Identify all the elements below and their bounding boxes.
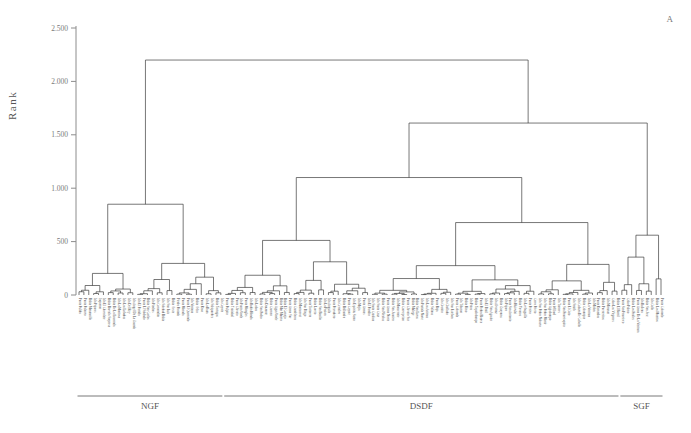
leaf-label: Isla Espiritu Santo	[352, 298, 356, 321]
leaf-label: Bahia Oeste	[171, 298, 175, 314]
leaf-label: Isla Gallo	[650, 298, 654, 311]
leaf-label: Isla Coronadito	[156, 298, 160, 318]
leaf-label: Bahia San Francisquito	[562, 298, 566, 327]
group-label: SGF	[633, 401, 650, 411]
leaf-label: Jaqueron	[98, 298, 102, 310]
svg-text:1.500: 1.500	[51, 130, 68, 139]
leaf-label: Isla Santa Catalina	[371, 298, 375, 322]
leaf-label: Punta San Antonio	[508, 298, 512, 322]
leaf-label: Isla Ventana	[190, 298, 194, 314]
leaf-label: Bahia San Carlos	[146, 298, 150, 320]
leaf-label: Punta Pescadero	[332, 298, 336, 319]
leaf-label: Piedra Pintada	[176, 298, 180, 317]
leaf-label: Bahia Yavaros	[518, 298, 522, 317]
leaf-label: Bahia Manzanillo	[88, 298, 92, 321]
leaf-label: Bahia Guaymas	[499, 298, 503, 318]
leaf-label: Bahia San Basilio	[318, 298, 322, 321]
leaf-label: Punta Willard	[552, 298, 556, 316]
leaf-label: Bahia Topolobampo	[474, 298, 478, 324]
leaf-label: Punta Pulida	[78, 298, 82, 314]
leaf-label: Punta Pulpito	[225, 298, 229, 315]
leaf-label: Punta Chivato Sur	[406, 298, 410, 321]
svg-text:2.500: 2.500	[51, 24, 68, 33]
leaf-label: Punta Arena Sur	[288, 298, 292, 318]
leaf-label: Bahia Concepcion	[401, 298, 405, 321]
dendrogram-figure: A Rank 05001.0001.5002.0002.500 Punta Pu…	[0, 0, 691, 433]
leaf-label: Isla Pajaros	[93, 298, 97, 313]
leaf-label: Isla Mejia	[357, 298, 361, 311]
svg-text:500: 500	[57, 237, 69, 246]
leaf-label: Isla Lobos	[254, 298, 258, 312]
svg-text:1.000: 1.000	[51, 184, 68, 193]
dendrogram-plot: 05001.0001.5002.0002.500 Punta PulidaPun…	[0, 0, 691, 433]
leaf-label: Bahia San Lucas	[415, 298, 419, 320]
leaf-label: Punta Tintorera	[308, 298, 312, 318]
leaf-label: Isla Huivulai	[513, 298, 517, 314]
leaf-label: Bahia Ocho	[195, 298, 199, 313]
leaf-label: Isla La Pasion	[323, 298, 327, 316]
group-label: DSDF	[410, 401, 433, 411]
leaf-label: Punta Morada	[181, 298, 185, 316]
leaf-label: Isla Las Animas	[425, 298, 429, 319]
leaf-label: Isla Pajaro	[504, 298, 508, 312]
leaf-label: Isla Anguila	[327, 298, 331, 314]
leaf-label: Isla Partida Norte	[420, 298, 424, 320]
leaf-label: Bahia Tortugas	[215, 298, 219, 318]
leaf-label: Isla Cholludo	[445, 298, 449, 315]
leaf-label: Isla Cerralvo	[337, 298, 341, 315]
leaf-label: Bahia Agiabampo	[548, 298, 552, 321]
leaf-label: Isla San Pedro Nolasco	[538, 298, 542, 327]
leaf-label: Bahia Ballandra	[342, 298, 346, 319]
leaf-label: Punta Arenas	[362, 298, 366, 315]
leaf-label: Bahia Kino	[464, 298, 468, 313]
leaf-label: Isla El Partida	[137, 298, 141, 316]
leaf-label: Isla Piedras	[151, 298, 155, 313]
leaf-label: Bahia San Juanico	[391, 298, 395, 321]
leaf-label: Bahia Mulege	[411, 298, 415, 316]
leaf-label: Punta Perico	[528, 298, 532, 314]
leaf-label: Bahia San Agustin	[489, 298, 493, 321]
leaf-label: Isla Cabeza De Caballo	[577, 298, 581, 328]
leaf-label: Isla Alcatraz	[494, 298, 498, 314]
leaf-label: Isla San Luis	[166, 298, 170, 315]
leaf-label: Punta Arena Norte	[386, 298, 390, 322]
leaf-label: Punta Mangles	[244, 298, 248, 317]
leaf-label: Isla El Datil	[484, 298, 488, 313]
leaf-label: Isla Montserrat	[298, 298, 302, 317]
leaf-label: Punta El Gato	[567, 298, 571, 316]
leaf-label: Punta Agua Verde	[274, 298, 278, 321]
leaf-label: Bahia Loreto	[313, 298, 317, 315]
leaf-label: Bahia El Barril	[616, 298, 620, 317]
leaf-label: Isla La Ventana	[587, 298, 591, 318]
leaf-label: Isla San Diego	[303, 298, 307, 317]
svg-text:0: 0	[64, 291, 68, 300]
leaf-label: Bahia San Nicolas	[381, 298, 385, 322]
leaf-label: Punta El Soldado	[142, 298, 146, 320]
leaf-label: Isla La Montosa	[117, 298, 121, 319]
leaf-label: Bahia El Conejo	[283, 298, 287, 319]
leaf-label: Bahia Los Muertos	[655, 298, 659, 323]
leaf-label: Isla Salsipuedes	[210, 298, 214, 319]
leaf-label: Bahia Salinas	[430, 298, 434, 316]
leaf-label: Bahia Trinidad	[230, 298, 234, 317]
leaf-label: Isla Punta Verde	[239, 298, 243, 319]
leaf-label: Isla Smith	[572, 298, 576, 311]
leaf-label: Isla Del Rey	[127, 298, 131, 314]
leaf-label: Isla Las Lobadas	[122, 298, 126, 320]
leaf-label: Isla San Esteban	[450, 298, 454, 319]
leaf-label: Bahia Carmen	[269, 298, 273, 316]
leaf-label: Bahia Puertecitos	[601, 298, 605, 321]
leaf-label: Isla Coyote	[220, 298, 224, 313]
leaf-label: Isla Mitlan	[592, 298, 596, 312]
leaf-label: Bahia Barcala Sorpresa	[107, 298, 111, 328]
leaf-label: Cabo Pulmo	[626, 298, 630, 314]
leaf-label: Isla Granito	[440, 298, 444, 313]
leaf-label: Bahia Candeleros	[293, 298, 297, 321]
leaf-label: Isla Ballena	[640, 298, 644, 313]
leaf-label: Bahia San Pedro	[259, 298, 263, 319]
dendrogram-links	[79, 60, 661, 295]
leaf-label: Punta Palanco	[83, 298, 87, 316]
leaf-label: Isla Angel De La Guarda	[132, 298, 136, 330]
leaf-label: Isla Monserrate	[396, 298, 400, 318]
leaf-label: Bahia San Jose	[645, 298, 649, 317]
